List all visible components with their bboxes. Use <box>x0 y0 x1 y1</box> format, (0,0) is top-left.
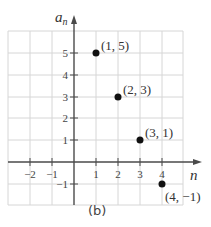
y-axis-label: an <box>55 9 68 27</box>
chart-canvas: −2 −1 1 2 3 4 5 4 3 2 1 −1 an n (1, 5) (… <box>0 0 211 227</box>
x-axis-label: n <box>190 167 198 183</box>
x-tick-label: 1 <box>93 168 99 180</box>
x-tick-label: 3 <box>137 168 143 180</box>
y-tick-label: 1 <box>63 134 69 146</box>
y-tick-label: −1 <box>56 178 68 190</box>
x-tick-label: 2 <box>115 168 121 180</box>
y-tick-label: 3 <box>63 91 69 103</box>
x-tick-label: 4 <box>159 168 165 180</box>
data-point <box>137 137 144 144</box>
data-point <box>159 181 166 188</box>
x-tick-label: −2 <box>24 168 36 180</box>
y-tick-label: 4 <box>63 69 69 81</box>
x-axis-arrow-icon <box>193 159 202 165</box>
y-axis-arrow-icon <box>71 15 77 24</box>
point-label: (3, 1) <box>145 125 173 140</box>
point-label: (1, 5) <box>101 38 129 53</box>
point-label: (4, −1) <box>165 189 201 204</box>
data-point <box>93 50 100 57</box>
figure-caption: (b) <box>88 203 106 218</box>
data-point <box>115 94 122 101</box>
y-tick-label: 5 <box>63 47 69 59</box>
point-label: (2, 3) <box>123 82 151 97</box>
y-tick-label: 2 <box>63 112 69 124</box>
